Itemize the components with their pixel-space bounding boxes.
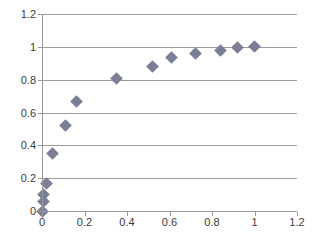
data-point-marker: [59, 119, 72, 132]
y-axis-tick-mark: [38, 178, 42, 179]
x-axis-tick-label: 0.2: [65, 216, 105, 228]
x-axis-tick-label: 0.4: [107, 216, 147, 228]
x-axis-tick-label: 1.2: [277, 216, 317, 228]
x-axis-tick-label: 1: [235, 216, 275, 228]
gridline-horizontal: [42, 113, 297, 114]
data-point-marker: [189, 47, 202, 60]
y-axis-line: [42, 14, 43, 212]
y-axis-tick-label: 1.2: [2, 9, 36, 20]
data-point-marker: [46, 147, 59, 160]
gridline-horizontal: [42, 145, 297, 146]
gridline-horizontal: [42, 80, 297, 81]
y-axis-tick-label: 0.8: [2, 75, 36, 86]
data-point-marker: [146, 60, 159, 73]
scatter-chart: 00.20.40.60.811.2 00.20.40.60.811.2: [0, 0, 320, 249]
data-point-marker: [231, 41, 244, 54]
data-point-marker: [248, 40, 261, 53]
y-axis-tick-mark: [38, 145, 42, 146]
gridline-horizontal: [42, 14, 297, 15]
x-axis-tick-label: 0.6: [150, 216, 190, 228]
y-axis-tick-label: 1: [2, 42, 36, 53]
gridline-horizontal: [42, 178, 297, 179]
data-point-marker: [214, 44, 227, 57]
y-axis-tick-labels: 00.20.40.60.811.2: [0, 14, 36, 212]
y-axis-tick-mark: [38, 14, 42, 15]
x-axis-tick-label: 0: [22, 216, 62, 228]
data-point-marker: [165, 51, 178, 64]
y-axis-tick-label: 0.2: [2, 173, 36, 184]
y-axis-tick-mark: [38, 47, 42, 48]
plot-area: [42, 14, 297, 211]
y-axis-tick-label: 0.4: [2, 140, 36, 151]
y-axis-tick-mark: [38, 80, 42, 81]
y-axis-tick-label: 0.6: [2, 108, 36, 119]
data-point-marker: [110, 72, 123, 85]
data-point-marker: [70, 95, 83, 108]
x-axis-tick-label: 0.8: [192, 216, 232, 228]
y-axis-tick-mark: [38, 113, 42, 114]
